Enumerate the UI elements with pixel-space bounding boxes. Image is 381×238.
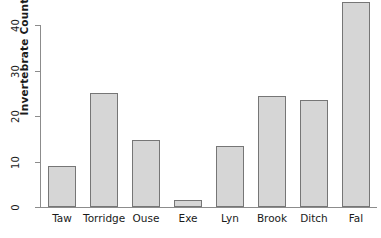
x-tick-label: Ouse: [125, 212, 167, 224]
x-tick-label: Torridge: [83, 212, 125, 224]
bar: [48, 166, 76, 207]
y-tick-label: 10: [10, 145, 21, 179]
bar: [300, 100, 328, 207]
bar: [258, 96, 286, 207]
y-tick-label: 0: [10, 191, 21, 225]
y-tick-label: 40: [10, 9, 21, 43]
x-tick-label: Ditch: [293, 212, 335, 224]
y-tick-mark: [35, 207, 40, 208]
bar: [90, 93, 118, 207]
bar: [216, 146, 244, 207]
bar: [174, 200, 202, 207]
x-axis-line: [40, 207, 377, 208]
plot-area: [41, 0, 377, 207]
y-tick-mark: [35, 116, 40, 117]
x-tick-label: Brook: [251, 212, 293, 224]
x-tick-label: Lyn: [209, 212, 251, 224]
x-tick-label: Fal: [335, 212, 377, 224]
x-tick-label: Taw: [41, 212, 83, 224]
y-tick-label: 20: [10, 100, 21, 134]
x-tick-label: Exe: [167, 212, 209, 224]
y-tick-label: 30: [10, 54, 21, 88]
y-tick-mark: [35, 71, 40, 72]
bar: [132, 140, 160, 207]
bar: [342, 2, 370, 207]
y-tick-mark: [35, 162, 40, 163]
y-tick-mark: [35, 25, 40, 26]
bar-chart: Invertebrate Count 010203040 TawTorridge…: [0, 0, 381, 238]
